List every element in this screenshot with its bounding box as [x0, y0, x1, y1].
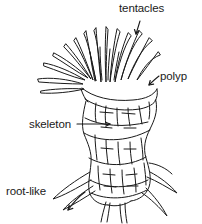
label-tentacles: tentacles: [119, 2, 164, 16]
root-like-support-structure: [53, 163, 177, 223]
tentacles-leader-arrow: [135, 21, 141, 34]
label-root-like-line1: root-like: [6, 185, 50, 199]
skeleton-leader-arrow: [77, 122, 110, 126]
skeleton-column: [83, 101, 157, 206]
tentacle-cluster: [38, 27, 160, 93]
polyp-rim: [81, 88, 157, 110]
root-leader-arrow: [68, 192, 85, 210]
label-skeleton: skeleton: [29, 118, 71, 132]
label-polyp: polyp: [160, 70, 187, 84]
polyp-leader-arrow: [149, 76, 159, 85]
coral-polyp-diagram: tentacles polyp skeleton root-like suppo…: [0, 0, 202, 224]
label-root-like-support-structure: root-like support structure: [6, 158, 50, 224]
